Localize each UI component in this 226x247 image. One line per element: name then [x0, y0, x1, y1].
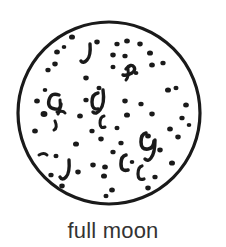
moon-dot — [94, 40, 100, 45]
moon-dot — [98, 137, 104, 142]
moon-crater — [39, 154, 47, 156]
moon-dot — [52, 62, 58, 67]
moon-dot — [75, 170, 81, 175]
moon-dot — [130, 160, 135, 164]
moon-dot — [102, 165, 108, 170]
moon-dot — [124, 39, 130, 44]
moon-dot — [114, 126, 119, 130]
moon-dot — [73, 141, 79, 146]
moon-dot — [183, 103, 189, 108]
moon-dot — [45, 68, 50, 73]
moon-dot — [187, 123, 192, 127]
moon-dot — [145, 186, 151, 191]
moon-dot — [101, 173, 107, 178]
moon-dot — [41, 111, 48, 117]
moon-dot — [149, 112, 155, 117]
moon-dot — [54, 50, 60, 55]
moon-dot — [96, 86, 101, 90]
moon-illustration — [0, 0, 226, 215]
moon-dot — [90, 163, 96, 168]
moon-dot — [160, 61, 165, 66]
moon-dot — [53, 154, 58, 158]
moon-dot — [69, 34, 75, 39]
moon-dot — [48, 173, 53, 178]
moon-dot — [157, 148, 163, 153]
moon-dot — [83, 98, 88, 103]
moon-dot — [122, 54, 127, 59]
moon-dot — [173, 86, 178, 90]
moon-dot — [32, 129, 38, 134]
figure-caption: full moon — [0, 218, 226, 244]
moon-dot — [124, 112, 130, 117]
moon-dot — [147, 50, 153, 55]
moon-dot — [175, 135, 181, 140]
moon-dot — [152, 175, 157, 180]
moon-dot — [179, 116, 184, 121]
moon-dot — [167, 127, 173, 132]
moon-dot — [122, 99, 128, 104]
moon-dot — [110, 53, 116, 58]
moon-dot — [62, 45, 67, 49]
moon-dot — [43, 88, 48, 92]
moon-dot — [110, 150, 115, 155]
moon-dot — [89, 129, 94, 134]
moon-dot — [109, 188, 115, 193]
moon-dot — [149, 63, 155, 68]
moon-dot — [138, 102, 143, 107]
moon-dot — [137, 42, 143, 47]
moon-dot — [110, 65, 115, 69]
moon-dot — [165, 87, 171, 92]
full-moon-figure: full moon — [0, 0, 226, 247]
moon-dot — [169, 160, 175, 165]
moon-dot — [118, 141, 123, 146]
moon-dot — [34, 99, 40, 104]
moon-dot — [114, 42, 119, 47]
moon-dot — [59, 184, 65, 189]
moon-dot — [83, 76, 89, 81]
moon-dot — [77, 114, 83, 119]
moon-dot — [103, 194, 108, 198]
